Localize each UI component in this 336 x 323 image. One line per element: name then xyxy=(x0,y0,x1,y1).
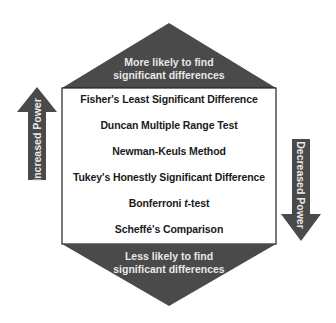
top-caption-line-2: significant differences xyxy=(62,69,276,82)
method-bonferroni: Bonferroni t-test xyxy=(62,197,276,209)
bottom-caption-line-2: significant differences xyxy=(62,263,276,276)
method-tukey-hsd: Tukey's Honestly Significant Difference xyxy=(62,171,276,183)
method-newman-keuls: Newman-Keuls Method xyxy=(62,145,276,157)
methods-box xyxy=(62,88,276,244)
method-fisher-lsd: Fisher's Least Significant Difference xyxy=(62,93,276,105)
decreased-power-label: Decreased Power xyxy=(295,141,307,229)
method-scheffe: Scheffé's Comparison xyxy=(62,223,276,235)
method-duncan: Duncan Multiple Range Test xyxy=(62,119,276,131)
bottom-caption-line-1: Less likely to find xyxy=(62,250,276,263)
increased-power-label: Increased Power xyxy=(31,98,43,181)
top-caption-line-1: More likely to find xyxy=(62,56,276,69)
bottom-caption: Less likely to find significant differen… xyxy=(62,250,276,276)
top-caption: More likely to find significant differen… xyxy=(62,56,276,82)
bonferroni-suffix: -test xyxy=(188,197,210,209)
bonferroni-prefix: Bonferroni xyxy=(129,197,184,209)
